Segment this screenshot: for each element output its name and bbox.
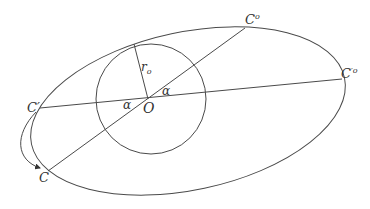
label-alpha-left: α	[123, 98, 131, 112]
inner-circle	[96, 44, 206, 154]
label-c-prime-o: C′o	[341, 66, 358, 81]
label-center-o: O	[143, 100, 155, 116]
line-c-prime-to-c-prime-o	[40, 79, 342, 108]
label-c-prime: C′	[27, 100, 40, 115]
label-alpha-right: α	[162, 84, 170, 98]
outer-ellipse	[15, 0, 361, 209]
label-c: C	[39, 170, 49, 185]
ellipse-rotation-diagram: Co C′o C′ C O ro α α	[0, 0, 370, 209]
label-c-o: Co	[245, 12, 260, 27]
label-radius: ro	[141, 60, 152, 76]
